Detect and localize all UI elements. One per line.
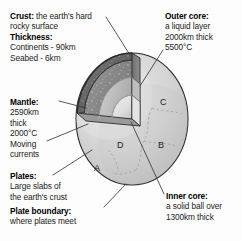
callout-mantle: Mantle: 2590km thick 2000°C	[10, 97, 39, 139]
mantle-line-2: thick	[10, 118, 39, 128]
plates-line-2: the earth's crust	[10, 192, 67, 202]
plate-boundary-line-1: where plates meet	[10, 216, 76, 226]
outer-core-line-2: 2000km thick	[165, 32, 213, 42]
callout-moving-currents: Moving currents	[10, 139, 39, 160]
crust-line-1-rest: the earth's hard	[34, 11, 92, 21]
crust-line-2: rocky surface	[10, 21, 92, 31]
globe-label-a: A	[94, 163, 100, 173]
callout-outer-core: Outer core: a liquid layer 2000km thick …	[165, 11, 213, 53]
inner-core-line-1: a solid ball over	[166, 201, 222, 211]
crust-heading: Crust:	[10, 11, 34, 21]
callout-inner-core: Inner core: a solid ball over 1300km thi…	[166, 191, 222, 222]
callout-crust: Crust: the earth's hard rocky surface Th…	[10, 11, 92, 63]
earth-structure-figure: Crust: the earth's hard rocky surface Th…	[0, 0, 242, 241]
outer-core-heading: Outer core:	[165, 11, 213, 21]
mantle-heading: Mantle:	[10, 97, 39, 107]
globe-label-c: C	[160, 97, 167, 107]
crust-thickness-heading: Thickness:	[10, 32, 92, 42]
leader-plate-boundary	[104, 184, 126, 207]
plates-line-1: Large slabs of	[10, 181, 67, 191]
plate-boundary-heading: Plate boundary:	[10, 206, 76, 216]
crust-line-1: Crust: the earth's hard	[10, 11, 92, 21]
globe-label-b: B	[158, 140, 164, 150]
outer-core-line-3: 5500°C	[165, 42, 213, 52]
mantle-line-3: 2000°C	[10, 128, 39, 138]
cutaway-wedge	[77, 53, 140, 126]
mantle-line-1: 2590km	[10, 107, 39, 117]
plates-heading: Plates:	[10, 171, 67, 181]
globe-label-d: D	[117, 140, 124, 150]
currents-line-1: Moving	[10, 139, 39, 149]
currents-line-2: currents	[10, 149, 39, 159]
callout-plate-boundary: Plate boundary: where plates meet	[10, 206, 76, 227]
outer-core-line-1: a liquid layer	[165, 21, 213, 31]
crust-line-3: Continents - 90km	[10, 42, 92, 52]
callout-plates: Plates: Large slabs of the earth's crust	[10, 171, 67, 202]
inner-core-line-2: 1300km thick	[166, 212, 222, 222]
inner-core-heading: Inner core:	[166, 191, 222, 201]
crust-line-4: Seabed - 6km	[10, 53, 92, 63]
leader-crust	[106, 17, 130, 55]
